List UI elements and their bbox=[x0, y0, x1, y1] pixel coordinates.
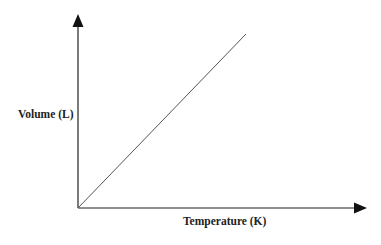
y-axis-label: Volume (L) bbox=[18, 108, 73, 120]
x-axis-label: Temperature (K) bbox=[183, 215, 266, 227]
x-axis-arrow-icon bbox=[354, 203, 367, 214]
y-axis-arrow-icon bbox=[73, 14, 84, 27]
chart-canvas bbox=[0, 0, 381, 245]
data-line bbox=[78, 34, 246, 208]
